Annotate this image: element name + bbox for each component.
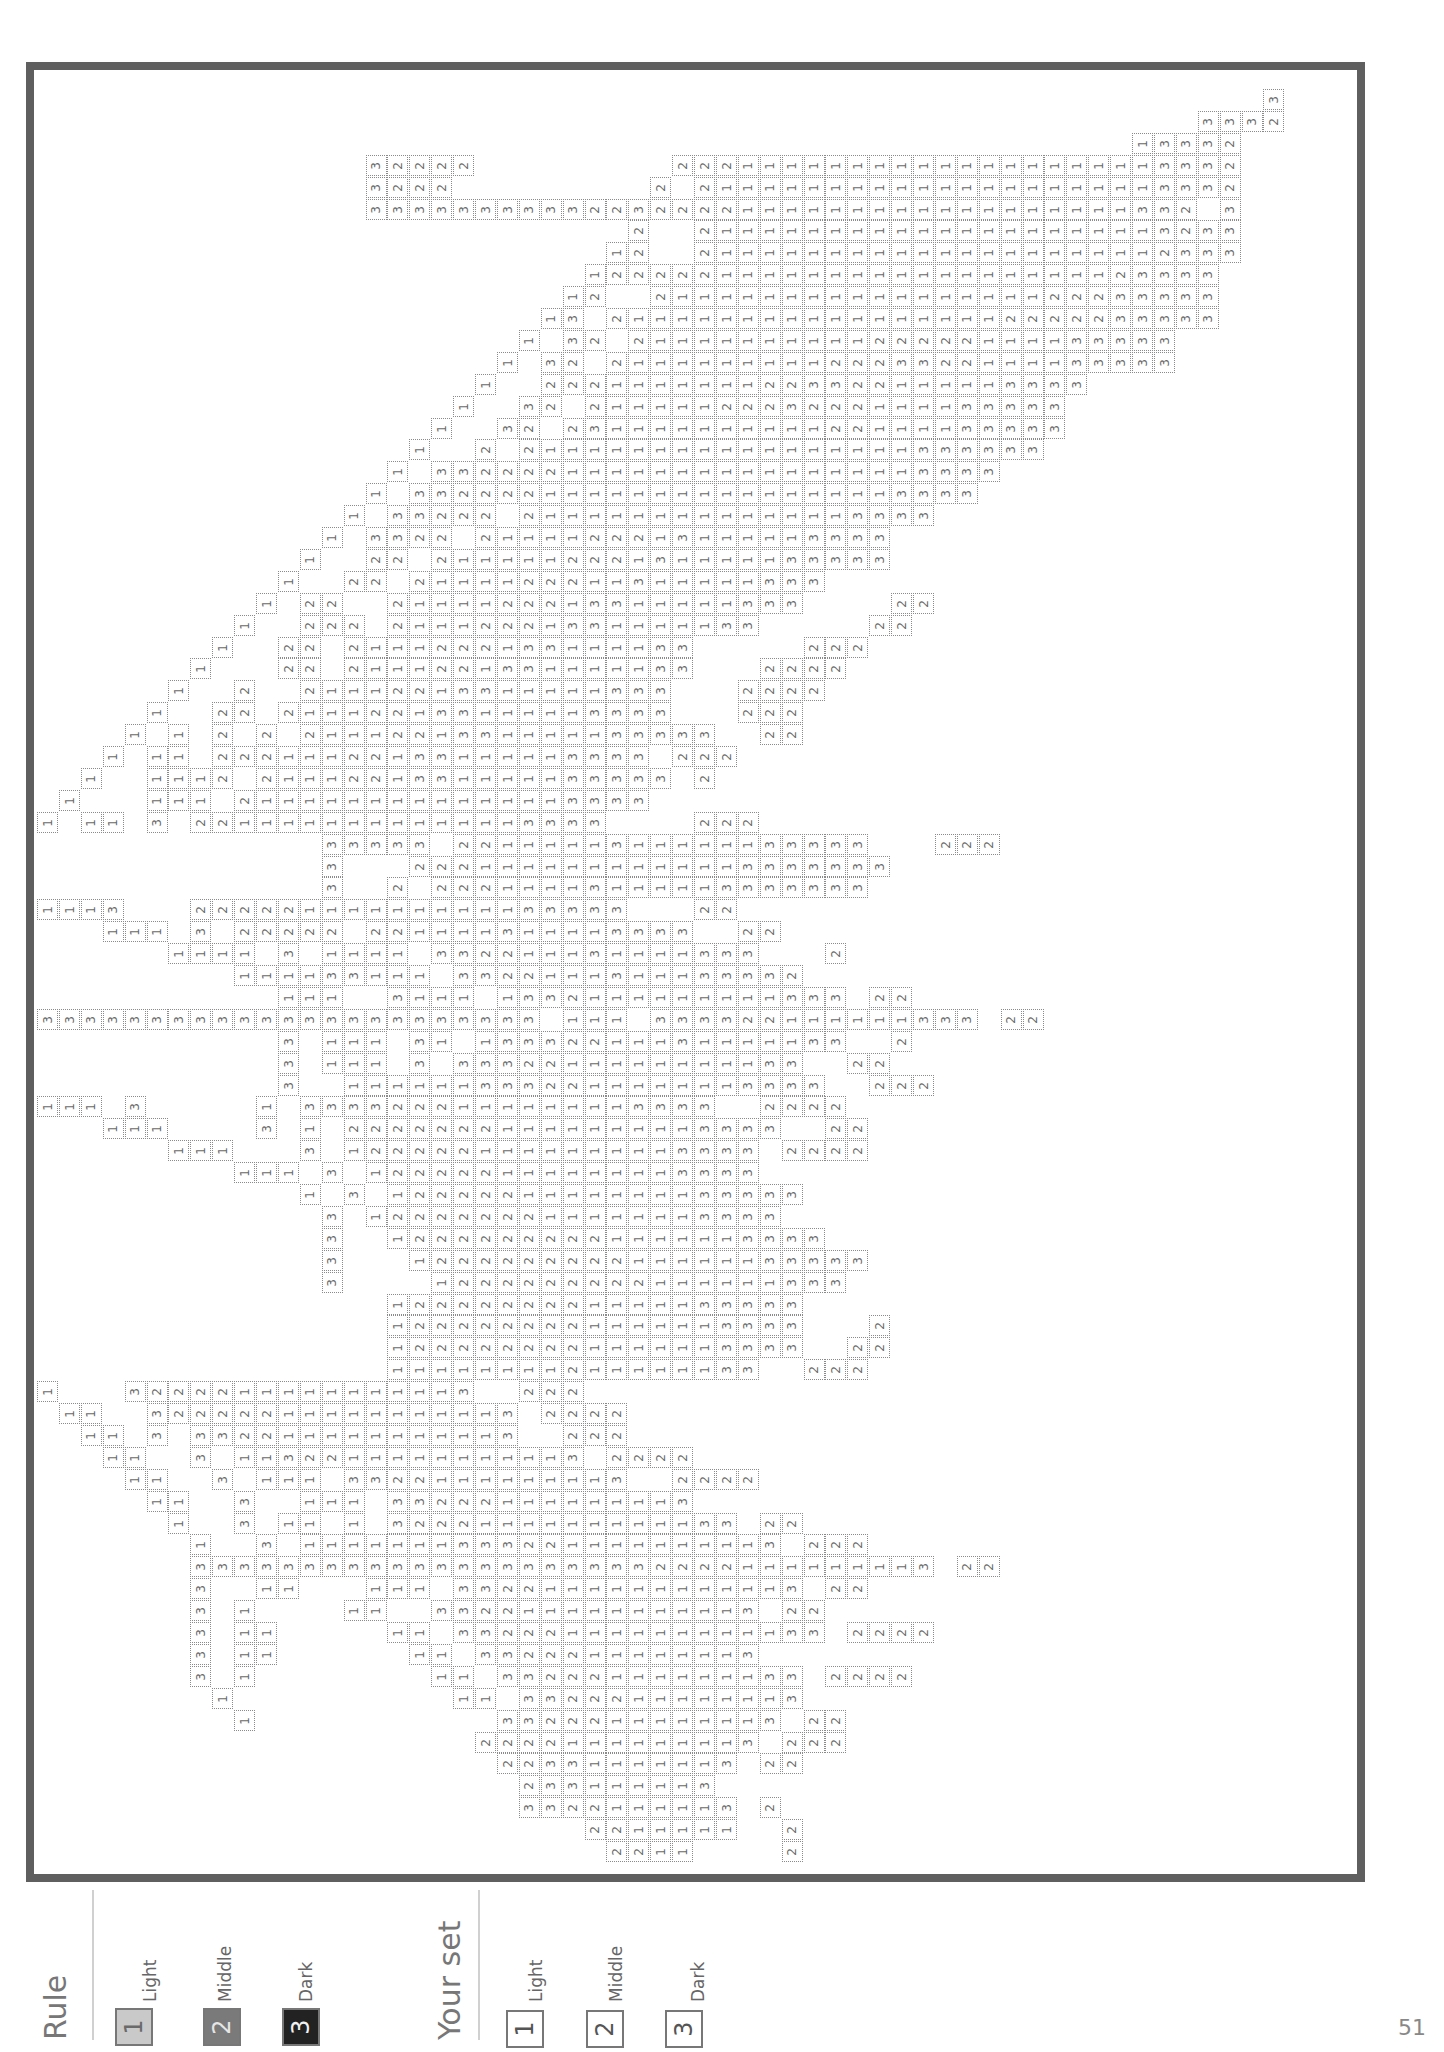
grid-cell[interactable]: 3 [431,1009,452,1030]
grid-cell[interactable]: 3 [672,1140,693,1161]
grid-cell[interactable]: 2 [563,571,584,592]
grid-cell[interactable]: 1 [891,286,912,307]
grid-cell[interactable]: 3 [1263,89,1284,110]
grid-cell[interactable]: 3 [606,593,627,614]
grid-cell[interactable]: 2 [563,1688,584,1709]
grid-cell[interactable]: 1 [694,1753,715,1774]
grid-cell[interactable]: 1 [212,1140,233,1161]
grid-cell[interactable]: 1 [606,1710,627,1731]
grid-cell[interactable]: 2 [891,615,912,636]
grid-cell[interactable]: 3 [453,1622,474,1643]
grid-cell[interactable]: 1 [475,790,496,811]
grid-cell[interactable]: 1 [1023,352,1044,373]
grid-cell[interactable]: 2 [847,1337,868,1358]
grid-cell[interactable]: 1 [300,987,321,1008]
grid-cell[interactable]: 1 [519,549,540,570]
grid-cell[interactable]: 2 [825,1534,846,1555]
grid-cell[interactable]: 1 [957,242,978,263]
grid-cell[interactable]: 2 [519,1206,540,1227]
grid-cell[interactable]: 1 [81,1096,102,1117]
grid-cell[interactable]: 2 [519,1272,540,1293]
grid-cell[interactable]: 2 [782,1600,803,1621]
grid-cell[interactable]: 3 [913,505,934,526]
grid-cell[interactable]: 1 [694,615,715,636]
grid-cell[interactable]: 2 [782,1096,803,1117]
grid-cell[interactable]: 2 [387,549,408,570]
grid-cell[interactable]: 2 [541,1534,562,1555]
grid-cell[interactable]: 1 [628,1534,649,1555]
grid-cell[interactable]: 3 [453,1578,474,1599]
grid-cell[interactable]: 2 [1154,242,1175,263]
grid-cell[interactable]: 3 [1154,155,1175,176]
grid-cell[interactable]: 3 [804,834,825,855]
grid-cell[interactable]: 2 [563,987,584,1008]
grid-cell[interactable]: 1 [760,308,781,329]
grid-cell[interactable]: 2 [475,1184,496,1205]
grid-cell[interactable]: 2 [585,1666,606,1687]
grid-cell[interactable]: 1 [322,1381,343,1402]
grid-cell[interactable]: 3 [782,987,803,1008]
grid-cell[interactable]: 3 [738,1359,759,1380]
grid-cell[interactable]: 1 [650,461,671,482]
grid-cell[interactable]: 1 [344,1381,365,1402]
grid-cell[interactable]: 3 [1176,177,1197,198]
grid-cell[interactable]: 3 [563,746,584,767]
grid-cell[interactable]: 2 [409,1162,430,1183]
grid-cell[interactable]: 2 [891,1031,912,1052]
grid-cell[interactable]: 2 [431,1228,452,1249]
grid-cell[interactable]: 2 [957,834,978,855]
grid-cell[interactable]: 3 [1198,264,1219,285]
grid-cell[interactable]: 1 [650,571,671,592]
grid-cell[interactable]: 1 [475,1469,496,1490]
grid-cell[interactable]: 2 [825,658,846,679]
grid-cell[interactable]: 2 [300,724,321,745]
grid-cell[interactable]: 1 [322,1031,343,1052]
grid-cell[interactable]: 1 [278,1425,299,1446]
grid-cell[interactable]: 2 [453,1184,474,1205]
grid-cell[interactable]: 1 [650,1710,671,1731]
grid-cell[interactable]: 1 [563,965,584,986]
grid-cell[interactable]: 2 [782,1753,803,1774]
grid-cell[interactable]: 3 [387,527,408,548]
grid-cell[interactable]: 1 [344,724,365,745]
grid-cell[interactable]: 2 [585,286,606,307]
grid-cell[interactable]: 1 [541,746,562,767]
grid-cell[interactable]: 1 [409,1425,430,1446]
grid-cell[interactable]: 3 [366,1556,387,1577]
grid-cell[interactable]: 3 [519,1075,540,1096]
grid-cell[interactable]: 1 [256,1578,277,1599]
grid-cell[interactable]: 3 [738,943,759,964]
grid-cell[interactable]: 1 [672,461,693,482]
grid-cell[interactable]: 1 [300,1513,321,1534]
grid-cell[interactable]: 1 [563,1491,584,1512]
grid-cell[interactable]: 1 [453,1075,474,1096]
grid-cell[interactable]: 3 [606,834,627,855]
grid-cell[interactable]: 1 [541,615,562,636]
grid-cell[interactable]: 1 [672,374,693,395]
grid-cell[interactable]: 2 [1088,308,1109,329]
grid-cell[interactable]: 2 [519,1622,540,1643]
grid-cell[interactable]: 1 [650,352,671,373]
grid-cell[interactable]: 1 [606,1315,627,1336]
grid-cell[interactable]: 2 [475,615,496,636]
grid-cell[interactable]: 1 [760,242,781,263]
grid-cell[interactable]: 2 [606,549,627,570]
grid-cell[interactable]: 1 [694,834,715,855]
grid-cell[interactable]: 3 [650,549,671,570]
grid-cell[interactable]: 2 [825,1118,846,1139]
grid-cell[interactable]: 1 [431,615,452,636]
grid-cell[interactable]: 1 [782,439,803,460]
grid-cell[interactable]: 1 [694,1053,715,1074]
grid-cell[interactable]: 1 [563,856,584,877]
grid-cell[interactable]: 1 [935,286,956,307]
grid-cell[interactable]: 3 [760,1337,781,1358]
grid-cell[interactable]: 1 [957,155,978,176]
grid-cell[interactable]: 1 [344,943,365,964]
grid-cell[interactable]: 2 [606,1272,627,1293]
grid-cell[interactable]: 1 [935,264,956,285]
grid-cell[interactable]: 1 [256,1644,277,1665]
grid-cell[interactable]: 2 [519,1250,540,1271]
grid-cell[interactable]: 2 [431,1118,452,1139]
grid-cell[interactable]: 2 [935,834,956,855]
grid-cell[interactable]: 1 [694,308,715,329]
